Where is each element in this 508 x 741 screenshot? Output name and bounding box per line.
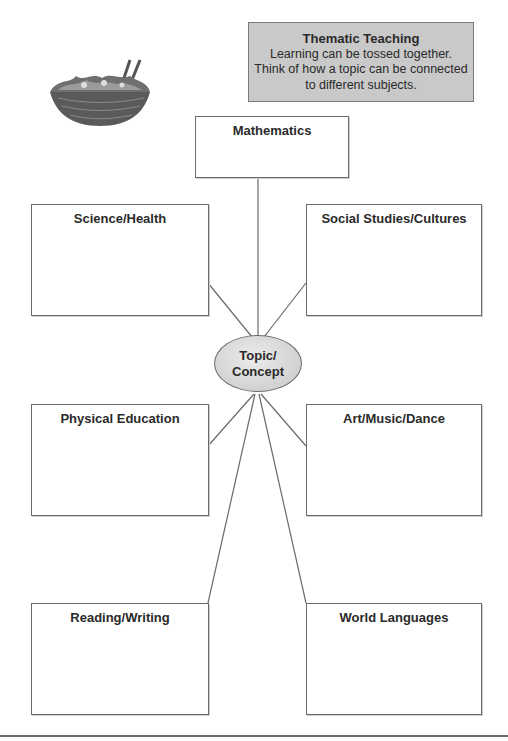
box-reading-writing: Reading/Writing: [31, 603, 209, 715]
label-science-health: Science/Health: [32, 211, 208, 226]
bottom-divider: [0, 735, 508, 737]
box-physical-education: Physical Education: [31, 404, 209, 516]
box-science-health: Science/Health: [31, 204, 209, 316]
topic-line-1: Topic/: [232, 348, 284, 364]
box-world-languages: World Languages: [306, 603, 482, 715]
label-mathematics: Mathematics: [196, 123, 348, 138]
label-reading-writing: Reading/Writing: [32, 610, 208, 625]
label-art-music-dance: Art/Music/Dance: [307, 411, 481, 426]
label-world-languages: World Languages: [307, 610, 481, 625]
label-physical-education: Physical Education: [32, 411, 208, 426]
box-social-studies: Social Studies/Cultures: [306, 204, 482, 316]
box-mathematics: Mathematics: [195, 116, 349, 178]
topic-concept-ellipse: Topic/ Concept: [214, 335, 302, 392]
topic-line-2: Concept: [232, 364, 284, 380]
box-art-music-dance: Art/Music/Dance: [306, 404, 482, 516]
label-social-studies: Social Studies/Cultures: [307, 211, 481, 226]
